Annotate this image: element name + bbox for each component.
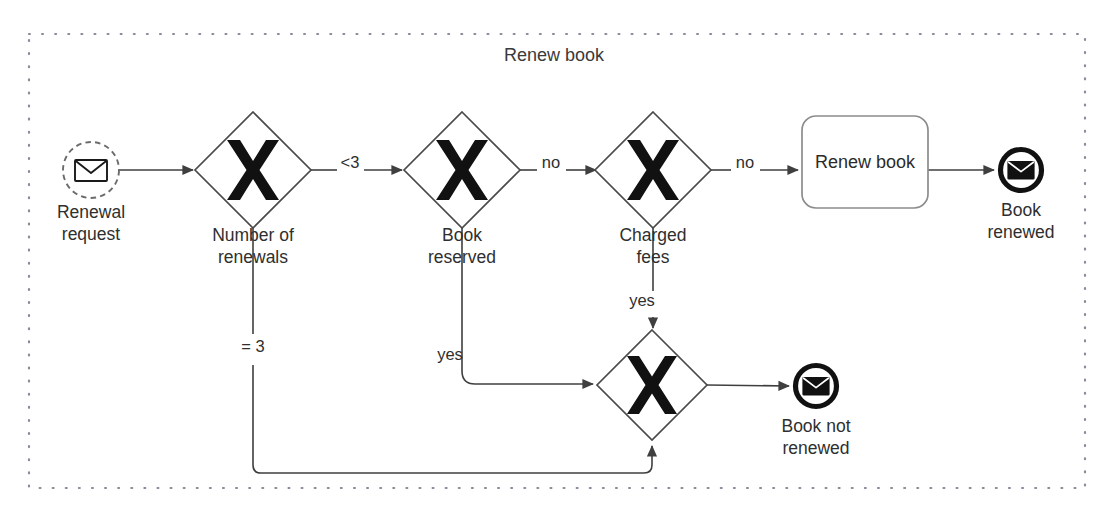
end-event-book-renewed-label: Book renewed: [951, 199, 1091, 244]
flow-label-fees-yes: yes: [612, 290, 672, 311]
flow-label-fees-no: no: [715, 152, 775, 173]
envelope-icon: [803, 378, 829, 396]
gateway-number-of-renewals-label: Number of renewals: [173, 224, 333, 269]
end-event-book-renewed[interactable]: [1001, 150, 1042, 191]
start-event-label: Renewal request: [21, 201, 161, 246]
gateway-merge-not-renewed[interactable]: [597, 330, 707, 440]
end-event-book-not-renewed[interactable]: [796, 366, 837, 407]
flow-renewals-eq3-b: [253, 365, 652, 473]
flow-label-reserved-no: no: [521, 152, 581, 173]
gateway-charged-fees-label: Charged fees: [573, 224, 733, 269]
flow-label-eq3: = 3: [223, 336, 283, 357]
start-event-renewal-request[interactable]: [63, 142, 119, 198]
gateway-number-of-renewals[interactable]: [195, 112, 311, 228]
flow-merge-to-book-not-renewed: [707, 385, 789, 386]
gateway-charged-fees[interactable]: [595, 112, 711, 228]
flow-label-lt3: <3: [320, 152, 380, 173]
gateway-book-reserved-label: Book reserved: [382, 224, 542, 269]
gateway-book-reserved[interactable]: [404, 112, 520, 228]
pool-title: Renew book: [419, 44, 689, 67]
envelope-icon: [75, 160, 107, 181]
end-event-book-not-renewed-label: Book not renewed: [746, 415, 886, 460]
bpmn-diagram-svg: [0, 0, 1108, 511]
envelope-icon: [1008, 162, 1034, 180]
bpmn-diagram-canvas: Renew book Renewal request Number of ren…: [0, 0, 1108, 511]
flow-label-reserved-yes: yes: [420, 344, 480, 365]
task-renew-book-label: Renew book: [802, 151, 928, 174]
